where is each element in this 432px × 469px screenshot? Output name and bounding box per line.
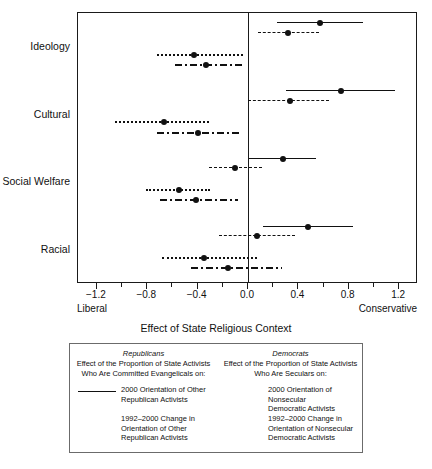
axis-end-label-conservative: Conservative: [359, 303, 417, 314]
estimate-point: [254, 233, 260, 239]
estimate-point: [305, 224, 311, 230]
confidence-interval: [191, 267, 282, 269]
x-tick: [222, 283, 223, 287]
legend-column-democrats: Democrats Effect of the Proportion of St…: [217, 349, 364, 378]
confidence-interval: [157, 54, 243, 56]
x-tick: [171, 283, 172, 287]
x-tick: [272, 283, 273, 287]
zero-reference-line: [248, 13, 249, 282]
legend-entry: 2000 Orientation of NonsecularDemocratic…: [225, 385, 364, 414]
x-axis-title: Effect of State Religious Context: [0, 322, 432, 334]
category-label: Ideology: [30, 40, 70, 51]
estimate-point: [161, 119, 167, 125]
legend: Republicans Effect of the Proportion of …: [69, 343, 363, 453]
estimate-point: [203, 62, 209, 68]
category-axis: IdeologyCulturalSocial WelfareRacial: [0, 12, 74, 283]
estimate-point: [176, 187, 182, 193]
legend-line-swatch: [78, 387, 116, 396]
legend-line-swatch: [78, 416, 116, 425]
estimate-point: [287, 98, 293, 104]
estimate-point: [201, 255, 207, 261]
estimate-point: [193, 197, 199, 203]
x-tick-label: −0.4: [187, 289, 207, 300]
category-label: Cultural: [34, 108, 70, 119]
axis-end-label-liberal: Liberal: [77, 303, 107, 314]
estimate-point: [195, 130, 201, 136]
legend-title-republicans: Republicans: [70, 349, 217, 358]
legend-subtitle-republicans-line1: Effect of the Proportion of State Activi…: [70, 359, 217, 369]
legend-entry-label: 2000 Orientation of NonsecularDemocratic…: [268, 385, 364, 414]
legend-subtitle-democrats-line1: Effect of the Proportion of State Activi…: [217, 359, 364, 369]
x-tick-label: 0.0: [240, 289, 254, 300]
x-tick-label: 0.8: [341, 289, 355, 300]
estimate-point: [191, 52, 197, 58]
legend-entry: 1992–2000 Change inOrientation of Nonsec…: [225, 414, 364, 443]
x-tick: [121, 283, 122, 287]
x-tick-label: 0.4: [290, 289, 304, 300]
estimate-point: [285, 30, 291, 36]
legend-title-democrats: Democrats: [217, 349, 364, 358]
legend-entry-label: 1992–2000 Change inOrientation of OtherR…: [121, 414, 195, 443]
estimate-point: [338, 88, 344, 94]
x-tick-label: 1.2: [391, 289, 405, 300]
legend-entry-label: 1992–2000 Change inOrientation of Nonsec…: [268, 414, 353, 443]
estimate-point: [317, 20, 323, 26]
legend-entry-label: 2000 Orientation of OtherRepublican Acti…: [121, 385, 206, 404]
plot-area: [77, 12, 417, 283]
legend-entry: 1992–2000 Change inOrientation of OtherR…: [78, 414, 217, 443]
legend-subtitle-republicans-line2: Who Are Committed Evangelicals on:: [70, 369, 217, 379]
estimate-point: [232, 165, 238, 171]
legend-line-swatch: [225, 416, 263, 425]
category-label: Social Welfare: [2, 176, 70, 187]
category-label: Racial: [41, 244, 70, 255]
x-tick-label: −0.8: [136, 289, 156, 300]
legend-line-swatch: [225, 387, 263, 396]
x-tick-label: −1.2: [86, 289, 106, 300]
x-tick: [373, 283, 374, 287]
legend-entry: 2000 Orientation of OtherRepublican Acti…: [78, 385, 217, 404]
estimate-point: [280, 156, 286, 162]
legend-column-republicans: Republicans Effect of the Proportion of …: [70, 349, 217, 378]
chart-root: IdeologyCulturalSocial WelfareRacial −1.…: [0, 0, 432, 469]
x-tick: [323, 283, 324, 287]
confidence-interval: [162, 257, 256, 259]
estimate-point: [225, 265, 231, 271]
legend-subtitle-democrats-line2: Who Are Seculars on:: [217, 369, 364, 379]
